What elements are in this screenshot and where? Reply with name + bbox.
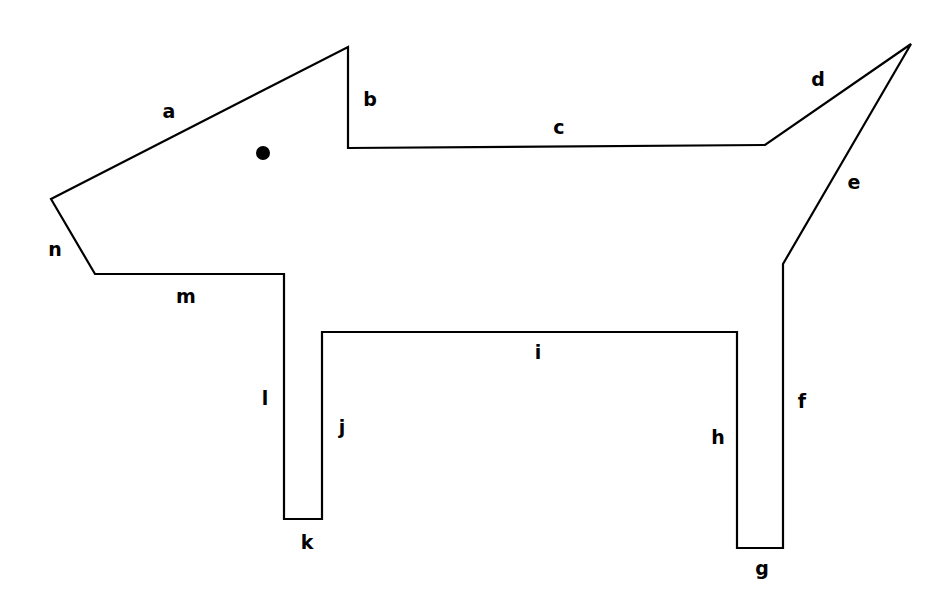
edge-label-b: b [363, 90, 377, 109]
edge-label-f: f [798, 392, 806, 411]
edge-label-j: j [339, 418, 346, 437]
edge-label-c: c [553, 118, 564, 137]
edge-label-i: i [535, 343, 542, 362]
figure-canvas: abcdefghijklmn [0, 0, 940, 611]
edge-label-h: h [711, 428, 725, 447]
polygon-figure-svg [0, 0, 940, 611]
edge-label-d: d [811, 70, 825, 89]
interior-dot [256, 146, 270, 160]
edge-label-n: n [48, 240, 62, 259]
edge-label-l: l [262, 389, 269, 408]
edge-label-g: g [755, 559, 769, 578]
edge-label-m: m [176, 287, 196, 306]
edge-label-e: e [848, 173, 861, 192]
edge-label-k: k [301, 533, 314, 552]
edge-label-a: a [163, 102, 176, 121]
